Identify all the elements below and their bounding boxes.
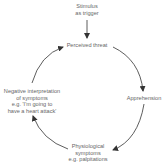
arrow-negative-to-threat [32, 47, 63, 83]
node-physiological-symptoms: Physiological symptoms e.g. palpitations [66, 143, 110, 163]
node-perceived-threat: Perceived threat [62, 42, 112, 49]
node-apprehension: Apprehension [122, 95, 166, 102]
node-negative-interpretation: Negative interpretation of symptoms e.g.… [0, 88, 64, 114]
arrow-physiological-to-negative [33, 116, 68, 149]
node-stimulus: Stimulus as trigger [70, 3, 104, 16]
arrow-threat-to-apprehension [113, 47, 143, 91]
arrow-apprehension-to-physiological [113, 104, 144, 150]
